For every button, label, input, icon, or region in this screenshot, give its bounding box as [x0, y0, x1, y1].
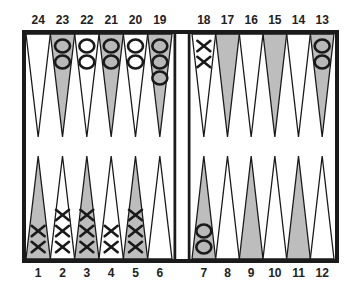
checker-o[interactable] [152, 72, 167, 85]
point-label: 1 [35, 266, 42, 280]
point-label: 17 [221, 13, 235, 27]
point-label: 3 [83, 266, 90, 280]
point-12[interactable] [310, 156, 334, 259]
checker-o[interactable] [79, 40, 94, 53]
checker-o[interactable] [196, 225, 211, 238]
backgammon-board: 242322212019181716151413 123456789101112 [0, 0, 354, 293]
point-label: 4 [108, 266, 115, 280]
point-label: 6 [156, 266, 163, 280]
bar[interactable] [177, 34, 188, 259]
checker-o[interactable] [128, 56, 143, 69]
checker-o[interactable] [55, 40, 70, 53]
point-label: 19 [153, 13, 167, 27]
point-16[interactable] [239, 34, 263, 137]
point-4[interactable] [99, 156, 123, 259]
point-8[interactable] [216, 156, 240, 259]
point-2[interactable] [50, 156, 74, 259]
point-label: 20 [129, 13, 143, 27]
point-18[interactable] [192, 34, 216, 137]
point-label: 21 [104, 13, 118, 27]
point-label: 2 [59, 266, 66, 280]
point-label: 23 [56, 13, 70, 27]
top-point-labels: 242322212019181716151413 [31, 13, 329, 27]
point-label: 18 [197, 13, 211, 27]
checker-o[interactable] [315, 40, 330, 53]
point-label: 15 [268, 13, 282, 27]
point-17[interactable] [216, 34, 240, 137]
point-label: 9 [248, 266, 255, 280]
point-9[interactable] [239, 156, 263, 259]
point-24[interactable] [26, 34, 50, 137]
point-label: 5 [132, 266, 139, 280]
point-6[interactable] [148, 156, 172, 259]
checker-o[interactable] [79, 56, 94, 69]
checker-o[interactable] [152, 40, 167, 53]
point-label: 10 [268, 266, 282, 280]
point-label: 14 [292, 13, 306, 27]
point-label: 13 [315, 13, 329, 27]
checker-o[interactable] [55, 56, 70, 69]
checker-o[interactable] [128, 40, 143, 53]
point-label: 11 [292, 266, 305, 280]
point-5[interactable] [123, 156, 147, 259]
point-11[interactable] [287, 156, 311, 259]
point-label: 22 [80, 13, 94, 27]
checker-o[interactable] [196, 241, 211, 254]
point-label: 24 [31, 13, 45, 27]
point-label: 12 [315, 266, 329, 280]
point-10[interactable] [263, 156, 287, 259]
point-1[interactable] [26, 156, 50, 259]
point-label: 16 [244, 13, 258, 27]
point-3[interactable] [75, 156, 99, 259]
point-15[interactable] [263, 34, 287, 137]
checker-o[interactable] [104, 56, 119, 69]
checker-o[interactable] [104, 40, 119, 53]
bottom-point-labels: 123456789101112 [35, 266, 329, 280]
checker-o[interactable] [152, 56, 167, 69]
point-14[interactable] [287, 34, 311, 137]
point-label: 7 [200, 266, 207, 280]
point-label: 8 [224, 266, 231, 280]
checker-o[interactable] [315, 56, 330, 69]
